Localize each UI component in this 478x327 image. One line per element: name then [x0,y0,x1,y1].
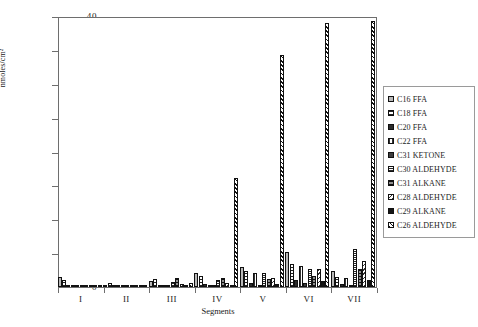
legend-label: C16 FFA [397,95,427,104]
legend-swatch-icon [388,110,394,116]
bar [84,285,88,287]
bar [335,277,339,287]
legend-label: C30 ALDEHYDE [397,165,457,174]
bar [249,283,253,287]
bar-group-IV [196,18,242,287]
legend-label: C31 KETONE [397,151,445,160]
bar [371,21,375,287]
bar [66,285,70,287]
bar [175,278,179,287]
bar [290,264,294,287]
chart-figure: nmoles/cm² 0510152025303540 IIIIIIIVVVIV… [0,0,478,327]
legend-item-c20-ffa[interactable]: C20 FFA [388,120,471,134]
bar [98,285,102,287]
legend-label: C28 ALDEHYDE [397,193,457,202]
bar [194,273,198,287]
bar [275,284,279,287]
x-tick-mark-4 [240,288,241,293]
bar [208,285,212,287]
bar [80,285,84,287]
x-tick-label-IV: IV [193,294,243,304]
bar [340,284,344,287]
legend-swatch-icon [388,222,394,228]
y-axis-title: nmoles/cm² [0,8,7,128]
legend-item-c26-aldehyde[interactable]: C26 ALDEHYDE [388,218,471,232]
legend-label: C22 FFA [397,137,427,146]
x-tick-label-II: II [101,294,151,304]
bar [158,285,162,287]
x-tick-mark-0 [58,288,59,293]
bar [149,281,153,287]
legend-item-c18-ffa[interactable]: C18 FFA [388,106,471,120]
bar [303,283,307,287]
bar-group-II [105,18,151,287]
x-tick-label-III: III [147,294,197,304]
legend-item-c29-alkane[interactable]: C29 ALKANE [388,204,471,218]
legend-swatch-icon [388,138,394,144]
bar [325,23,329,287]
bar [312,276,316,287]
legend-swatch-icon [388,208,394,214]
bar [212,285,216,287]
bar [367,280,371,287]
bar [244,271,248,287]
bar-group-V [241,18,287,287]
legend-swatch-icon [388,166,394,172]
legend: C16 FFAC18 FFAC20 FFAC22 FFAC31 KETONEC3… [383,86,475,238]
x-axis-title: Segments [168,306,268,316]
bar [230,285,234,287]
bar [353,249,357,287]
bar-group-I [59,18,105,287]
bar [199,276,203,287]
legend-swatch-icon [388,180,394,186]
x-tick-mark-2 [149,288,150,293]
legend-label: C20 FFA [397,123,427,132]
bar [280,55,284,287]
legend-item-c28-aldehyde[interactable]: C28 ALDEHYDE [388,190,471,204]
legend-label: C18 FFA [397,109,427,118]
bar-group-VII [332,18,378,287]
legend-label: C31 ALKANE [397,179,446,188]
bar [130,285,134,287]
bar [58,277,62,287]
bar [203,284,207,287]
bar [308,269,312,287]
legend-swatch-icon [388,152,394,158]
bar [358,269,362,287]
legend-item-c30-aldehyde[interactable]: C30 ALDEHYDE [388,162,471,176]
bar [349,285,353,287]
bar [321,281,325,287]
bar [258,285,262,287]
x-tick-mark-6 [331,288,332,293]
legend-item-c22-ffa[interactable]: C22 FFA [388,134,471,148]
bar [139,285,143,287]
x-tick-label-VII: VII [329,294,379,304]
legend-item-c16-ffa[interactable]: C16 FFA [388,92,471,106]
bar [153,279,157,287]
bar [240,267,244,287]
bar [75,285,79,287]
bar [271,278,275,287]
bar [134,285,138,287]
legend-item-c31-ketone[interactable]: C31 KETONE [388,148,471,162]
bar [125,285,129,287]
plot-area [58,17,377,288]
bar [234,178,238,287]
bar [225,283,229,287]
bar [317,269,321,287]
x-tick-mark-3 [195,288,196,293]
bar [344,278,348,287]
bar [116,285,120,287]
x-tick-label-VI: VI [284,294,334,304]
x-tick-mark-1 [104,288,105,293]
bar [71,285,75,287]
bar [89,285,93,287]
bar [93,285,97,287]
bar [331,271,335,287]
bar [189,283,193,287]
bar [103,285,107,287]
legend-swatch-icon [388,124,394,130]
bar [143,285,147,287]
bar [299,266,303,287]
legend-item-c31-alkane[interactable]: C31 ALKANE [388,176,471,190]
